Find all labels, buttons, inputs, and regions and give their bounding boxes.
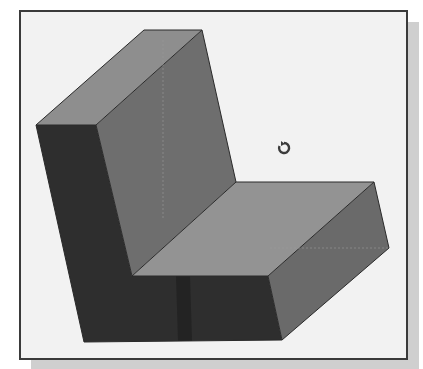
rotate-cursor-icon [276,140,292,156]
seam-shadow [176,276,192,341]
l-bracket-model[interactable] [0,0,423,369]
